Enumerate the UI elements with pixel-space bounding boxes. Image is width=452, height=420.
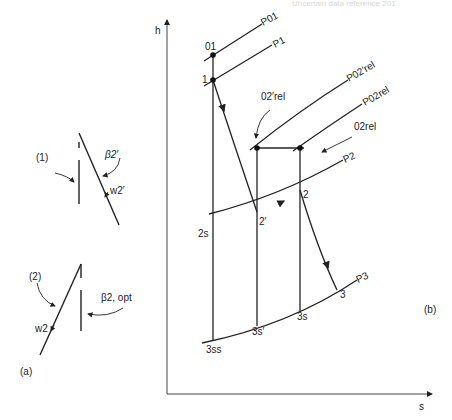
beta2prime-label: β2′ bbox=[104, 149, 119, 160]
annotation-02prime-rel: 02′rel bbox=[261, 91, 285, 102]
s-axis-label: s bbox=[419, 401, 424, 412]
isobar-label-p01: P01 bbox=[259, 9, 280, 27]
beta2opt-label: β2, opt bbox=[101, 292, 132, 303]
isobar-p02rel bbox=[293, 104, 362, 151]
state-3s: 3s bbox=[297, 311, 308, 322]
isobar-label-p2: P2 bbox=[341, 149, 357, 164]
expansion-2-3 bbox=[300, 190, 337, 290]
panel-a bbox=[37, 133, 123, 355]
expansion-1-2prime bbox=[213, 80, 257, 212]
w2prime-label: w2′ bbox=[109, 185, 125, 196]
state-2s: 2s bbox=[198, 228, 209, 239]
state-3ss: 3ss bbox=[206, 344, 222, 355]
case-1-label: (1) bbox=[36, 152, 48, 163]
isobar-label-p3: P3 bbox=[354, 269, 370, 284]
state-3sprime: 3s′ bbox=[252, 326, 265, 337]
isobar-p2 bbox=[209, 160, 343, 214]
isobars bbox=[202, 24, 362, 343]
enthalpy-entropy-diagram: Uncertain data reference 201 (1) β2′ w2′… bbox=[0, 0, 452, 420]
isobar-label-p1: P1 bbox=[271, 34, 287, 50]
isobar-p3 bbox=[202, 280, 357, 343]
case-2-label: (2) bbox=[29, 271, 41, 282]
panel-a-label: (a) bbox=[20, 366, 32, 377]
panel-b-label: (b) bbox=[424, 304, 436, 315]
w2-vector bbox=[40, 264, 81, 355]
isobar-label-p02prime-rel: P02′rel bbox=[345, 59, 377, 84]
state-01: 01 bbox=[205, 41, 217, 52]
w2-label: w2 bbox=[34, 323, 48, 334]
state-2: 2 bbox=[303, 189, 309, 200]
state-2prime: 2′ bbox=[259, 216, 267, 227]
w2prime-vector bbox=[79, 133, 119, 225]
state-3: 3 bbox=[340, 289, 346, 300]
state-1: 1 bbox=[202, 74, 208, 85]
h-axis-label: h bbox=[155, 25, 161, 36]
isobar-label-p02rel: P02rel bbox=[361, 84, 392, 108]
header-fragment: Uncertain data reference 201 bbox=[292, 0, 396, 8]
annotation-02rel: 02rel bbox=[354, 121, 376, 132]
